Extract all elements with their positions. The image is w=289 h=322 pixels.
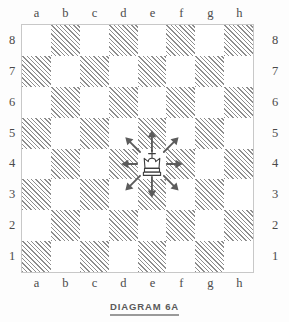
- square-c4[interactable]: [80, 149, 109, 180]
- square-d1[interactable]: [109, 241, 138, 272]
- square-h7[interactable]: [224, 56, 253, 87]
- rank-label-6-left: 6: [2, 87, 22, 118]
- square-f2[interactable]: [166, 210, 195, 241]
- chessboard[interactable]: [21, 24, 254, 273]
- square-f7[interactable]: [166, 56, 195, 87]
- square-b3[interactable]: [51, 179, 80, 210]
- file-label-h: h: [225, 4, 254, 22]
- square-g3[interactable]: [195, 179, 224, 210]
- square-f3[interactable]: [166, 179, 195, 210]
- file-label-b-bottom: b: [51, 274, 80, 292]
- square-h2[interactable]: [224, 210, 253, 241]
- square-g2[interactable]: [195, 210, 224, 241]
- square-b8[interactable]: [51, 25, 80, 56]
- square-f4[interactable]: [166, 149, 195, 180]
- file-label-c-bottom: c: [80, 274, 109, 292]
- square-h6[interactable]: [224, 87, 253, 118]
- square-h4[interactable]: [224, 149, 253, 180]
- square-a2[interactable]: [22, 210, 51, 241]
- file-labels-top: a b c d e f g h: [22, 4, 254, 22]
- file-label-e-bottom: e: [138, 274, 167, 292]
- file-label-b: b: [51, 4, 80, 22]
- rank-label-3-left: 3: [2, 179, 22, 210]
- square-g5[interactable]: [195, 118, 224, 149]
- square-e6[interactable]: [138, 87, 167, 118]
- square-e5[interactable]: [138, 118, 167, 149]
- rank-label-4-left: 4: [2, 149, 22, 180]
- rank-label-1-left: 1: [2, 241, 22, 272]
- square-g8[interactable]: [195, 25, 224, 56]
- square-d8[interactable]: [109, 25, 138, 56]
- rank-labels-left: 8 7 6 5 4 3 2 1: [2, 25, 22, 272]
- square-c1[interactable]: [80, 241, 109, 272]
- square-f5[interactable]: [166, 118, 195, 149]
- white-king-glyph: [139, 149, 165, 179]
- square-c8[interactable]: [80, 25, 109, 56]
- file-label-f: f: [167, 4, 196, 22]
- square-g1[interactable]: [195, 241, 224, 272]
- square-a1[interactable]: [22, 241, 51, 272]
- file-label-c: c: [80, 4, 109, 22]
- rank-label-6-right: 6: [265, 87, 285, 118]
- square-d3[interactable]: [109, 179, 138, 210]
- square-a8[interactable]: [22, 25, 51, 56]
- file-label-f-bottom: f: [167, 274, 196, 292]
- square-a7[interactable]: [22, 56, 51, 87]
- square-d2[interactable]: [109, 210, 138, 241]
- rank-label-7-left: 7: [2, 56, 22, 87]
- square-a3[interactable]: [22, 179, 51, 210]
- square-e4[interactable]: [138, 149, 167, 180]
- square-b6[interactable]: [51, 87, 80, 118]
- square-e1[interactable]: [138, 241, 167, 272]
- chess-diagram-page: a b c d e f g h 8 7 6 5 4 3 2 1 8 7 6 5 …: [0, 0, 289, 322]
- square-b4[interactable]: [51, 149, 80, 180]
- square-e7[interactable]: [138, 56, 167, 87]
- rank-label-1-right: 1: [265, 241, 285, 272]
- rank-label-2-left: 2: [2, 210, 22, 241]
- square-c3[interactable]: [80, 179, 109, 210]
- square-b1[interactable]: [51, 241, 80, 272]
- chessboard-grid: [22, 25, 253, 272]
- square-d6[interactable]: [109, 87, 138, 118]
- square-b2[interactable]: [51, 210, 80, 241]
- square-e2[interactable]: [138, 210, 167, 241]
- square-a5[interactable]: [22, 118, 51, 149]
- square-h5[interactable]: [224, 118, 253, 149]
- square-e8[interactable]: [138, 25, 167, 56]
- square-g7[interactable]: [195, 56, 224, 87]
- square-a4[interactable]: [22, 149, 51, 180]
- square-d7[interactable]: [109, 56, 138, 87]
- file-label-d: d: [109, 4, 138, 22]
- square-h3[interactable]: [224, 179, 253, 210]
- square-c5[interactable]: [80, 118, 109, 149]
- square-d4[interactable]: [109, 149, 138, 180]
- square-f1[interactable]: [166, 241, 195, 272]
- square-g4[interactable]: [195, 149, 224, 180]
- square-h1[interactable]: [224, 241, 253, 272]
- square-e3[interactable]: [138, 179, 167, 210]
- square-h8[interactable]: [224, 25, 253, 56]
- diagram-caption: DIAGRAM 6A: [0, 296, 289, 316]
- file-label-g: g: [196, 4, 225, 22]
- file-label-h-bottom: h: [225, 274, 254, 292]
- rank-label-7-right: 7: [265, 56, 285, 87]
- rank-label-5-right: 5: [265, 118, 285, 149]
- square-f6[interactable]: [166, 87, 195, 118]
- square-c2[interactable]: [80, 210, 109, 241]
- white-king-on-e4[interactable]: [138, 149, 167, 180]
- square-f8[interactable]: [166, 25, 195, 56]
- square-b7[interactable]: [51, 56, 80, 87]
- rank-label-5-left: 5: [2, 118, 22, 149]
- square-c7[interactable]: [80, 56, 109, 87]
- square-a6[interactable]: [22, 87, 51, 118]
- square-b5[interactable]: [51, 118, 80, 149]
- square-d5[interactable]: [109, 118, 138, 149]
- rank-label-8-left: 8: [2, 25, 22, 56]
- square-c6[interactable]: [80, 87, 109, 118]
- file-label-g-bottom: g: [196, 274, 225, 292]
- square-g6[interactable]: [195, 87, 224, 118]
- file-labels-bottom: a b c d e f g h: [22, 274, 254, 292]
- rank-label-3-right: 3: [265, 179, 285, 210]
- rank-label-4-right: 4: [265, 149, 285, 180]
- file-label-d-bottom: d: [109, 274, 138, 292]
